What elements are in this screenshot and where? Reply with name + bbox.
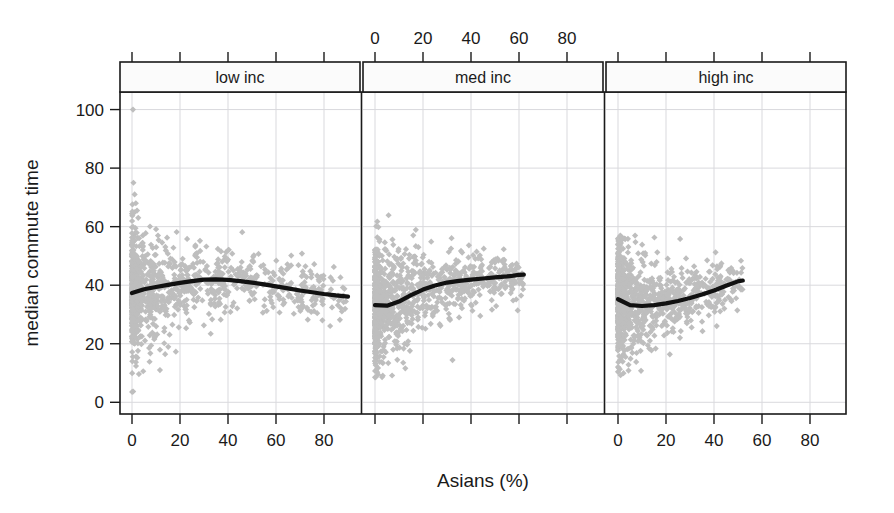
x-tick-label: 20 [171, 431, 190, 450]
data-point [382, 239, 388, 245]
x-tick-label: 60 [267, 431, 286, 450]
data-point [407, 348, 413, 354]
data-point [712, 249, 718, 255]
y-tick-label: 40 [85, 276, 104, 295]
data-point [403, 246, 409, 252]
data-point [410, 232, 416, 238]
data-point [456, 314, 462, 320]
data-point [129, 370, 135, 376]
data-point [691, 263, 697, 269]
data-point [169, 322, 175, 328]
data-point [706, 312, 712, 318]
data-point [209, 316, 215, 322]
data-point [413, 227, 419, 233]
data-point [385, 212, 391, 218]
x-tick-label: 40 [462, 29, 481, 48]
data-point [678, 265, 684, 271]
data-point [262, 296, 268, 302]
data-point [305, 317, 311, 323]
data-point [389, 237, 395, 243]
x-tick-label: 0 [370, 29, 379, 48]
data-point [152, 252, 158, 258]
data-point [635, 250, 641, 256]
data-point [446, 311, 452, 317]
data-point [135, 348, 141, 354]
data-point [390, 242, 396, 248]
data-point [201, 322, 207, 328]
data-point [208, 331, 214, 337]
data-point [654, 249, 660, 255]
y-tick-label: 100 [76, 101, 104, 120]
data-point [428, 239, 434, 245]
data-point [157, 347, 163, 353]
data-point [129, 218, 135, 224]
data-point [174, 229, 180, 235]
data-point [166, 332, 172, 338]
data-point [164, 235, 170, 241]
data-point-outlier [135, 215, 141, 221]
data-point [683, 255, 689, 261]
x-tick-label: 80 [558, 29, 577, 48]
data-point [161, 325, 167, 331]
data-point [299, 250, 305, 256]
data-point [197, 286, 203, 292]
data-point [171, 272, 177, 278]
data-point [625, 367, 631, 373]
panel-points-2 [372, 212, 526, 380]
data-point [677, 335, 683, 341]
x-tick-label: 0 [613, 431, 622, 450]
data-point [667, 351, 673, 357]
x-tick-label: 20 [657, 431, 676, 450]
chart-figure: low incmed inchigh inc100806040200020406… [0, 0, 894, 513]
data-point [288, 253, 294, 259]
data-point [489, 307, 495, 313]
data-point [696, 310, 702, 316]
data-point [707, 269, 713, 275]
data-point [203, 243, 209, 249]
data-point [678, 328, 684, 334]
strip-label-panel3: high inc [698, 69, 753, 86]
data-point [146, 359, 152, 365]
data-point [651, 333, 657, 339]
data-point [161, 340, 167, 346]
data-point [714, 323, 720, 329]
data-point [442, 295, 448, 301]
data-point [402, 365, 408, 371]
data-point [291, 311, 297, 317]
data-point [218, 317, 224, 323]
data-point [206, 311, 212, 317]
data-point [699, 319, 705, 325]
data-point [632, 239, 638, 245]
data-point [627, 356, 633, 362]
data-point [183, 325, 189, 331]
data-point [501, 246, 507, 252]
strip-label-panel2: med inc [455, 69, 511, 86]
data-point [489, 297, 495, 303]
y-tick-label: 20 [85, 335, 104, 354]
data-point [273, 258, 279, 264]
data-point [276, 309, 282, 315]
data-point [520, 286, 526, 292]
x-tick-label: 40 [705, 431, 724, 450]
data-point [157, 367, 163, 373]
data-point [704, 257, 710, 263]
data-point [738, 270, 744, 276]
data-point [311, 261, 317, 267]
data-point [448, 235, 454, 241]
data-point [129, 349, 135, 355]
data-point [380, 257, 386, 263]
x-tick-label: 20 [414, 29, 433, 48]
data-point [162, 351, 168, 357]
x-axis-title: Asians (%) [437, 470, 529, 491]
data-point [625, 362, 631, 368]
y-tick-label: 60 [85, 218, 104, 237]
data-point [147, 223, 153, 229]
data-point [499, 291, 505, 297]
data-point [678, 270, 684, 276]
data-point [155, 232, 161, 238]
data-point [389, 372, 395, 378]
y-axis-title: median commute time [21, 160, 42, 347]
data-point [295, 262, 301, 268]
data-point [710, 262, 716, 268]
x-tick-label: 40 [219, 431, 238, 450]
